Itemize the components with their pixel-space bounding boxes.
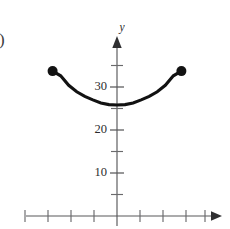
x-axis-right-arrow-icon (211, 211, 222, 221)
right-endpoint-dot (176, 66, 186, 76)
y-axis-label: y (118, 21, 125, 34)
y-axis-group: y 10 20 30 (95, 21, 126, 226)
x-axis-group (25, 210, 222, 222)
panel-label: ) (0, 30, 5, 49)
y-tick-label: 10 (95, 165, 108, 179)
figure-container: ) y (0, 0, 230, 229)
y-tick-label: 30 (95, 79, 108, 93)
parabola-graph: ) y (0, 0, 230, 229)
y-axis-major-ticks: 10 20 30 (95, 79, 125, 179)
y-tick-label: 20 (95, 122, 108, 136)
y-axis-up-arrow-icon (112, 36, 121, 48)
left-endpoint-dot (48, 66, 58, 76)
